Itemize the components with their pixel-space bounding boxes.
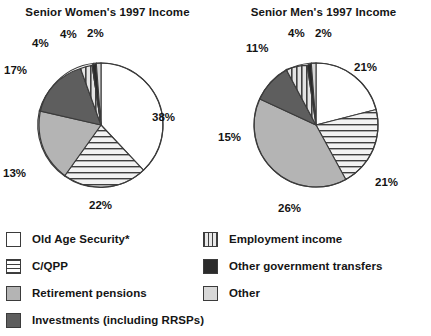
pie-label-men-investments: 15%	[218, 132, 241, 144]
legend-label-cqpp: C/QPP	[32, 260, 68, 272]
legend-swatch-other-icon	[203, 286, 218, 301]
pie-title-men: Senior Men's 1997 Income	[216, 6, 431, 18]
pie-chart-senior-women: Senior Women's 1997 Income	[0, 0, 215, 224]
pie-slices-women	[38, 63, 163, 187]
legend-item-retirement-pensions[interactable]: Retirement pensions	[6, 280, 201, 306]
chart-legend: Old Age Security* C/QPP Retirement pensi…	[0, 226, 431, 336]
legend-swatch-old-age-security-icon	[6, 232, 21, 247]
legend-label-investments: Investments (including RRSPs)	[32, 314, 204, 326]
legend-swatch-cqpp-icon	[6, 259, 21, 274]
legend-item-other[interactable]: Other	[203, 280, 431, 306]
legend-item-other-government-transfers[interactable]: Other government transfers	[203, 253, 431, 279]
legend-column-right: Employment income Other government trans…	[203, 226, 431, 307]
legend-label-other: Other	[229, 287, 260, 299]
legend-label-retirement-pensions: Retirement pensions	[32, 287, 147, 299]
pie-label-women-other-government-transfers: 4%	[60, 29, 77, 41]
pie-label-women-other: 2%	[87, 28, 104, 40]
pie-label-women-old-age-security: 38%	[152, 112, 175, 124]
legend-swatch-employment-income-icon	[203, 232, 218, 247]
pie-title-women: Senior Women's 1997 Income	[0, 6, 215, 18]
legend-swatch-investments-icon	[6, 313, 21, 328]
pie-slices-men	[254, 63, 378, 187]
legend-item-employment-income[interactable]: Employment income	[203, 226, 431, 252]
pie-label-men-employment-income: 11%	[246, 43, 268, 55]
pie-svg-women	[0, 22, 215, 222]
legend-item-investments[interactable]: Investments (including RRSPs)	[6, 307, 201, 333]
legend-swatch-other-government-transfers-icon	[203, 259, 218, 274]
pie-label-women-cqpp: 22%	[89, 200, 112, 212]
pie-chart-senior-men: Senior Men's 1997 Income	[216, 0, 431, 224]
legend-item-cqpp[interactable]: C/QPP	[6, 253, 201, 279]
charts-container: Senior Women's 1997 Income	[0, 0, 431, 224]
pie-label-women-employment-income: 4%	[32, 38, 49, 50]
legend-label-old-age-security: Old Age Security*	[32, 233, 130, 245]
legend-item-old-age-security[interactable]: Old Age Security*	[6, 226, 201, 252]
legend-swatch-retirement-pensions-icon	[6, 286, 21, 301]
pie-label-women-retirement-pensions: 13%	[3, 168, 26, 180]
pie-label-men-other-government-transfers: 4%	[288, 28, 305, 40]
legend-label-other-government-transfers: Other government transfers	[229, 260, 382, 272]
pie-label-men-retirement-pensions: 26%	[278, 203, 301, 215]
legend-column-left: Old Age Security* C/QPP Retirement pensi…	[6, 226, 201, 334]
pie-label-men-cqpp: 21%	[375, 177, 398, 189]
legend-label-employment-income: Employment income	[229, 233, 342, 245]
pie-label-women-investments: 17%	[4, 65, 27, 77]
pie-label-men-old-age-security: 21%	[354, 62, 377, 74]
pie-label-men-other: 2%	[315, 28, 332, 40]
